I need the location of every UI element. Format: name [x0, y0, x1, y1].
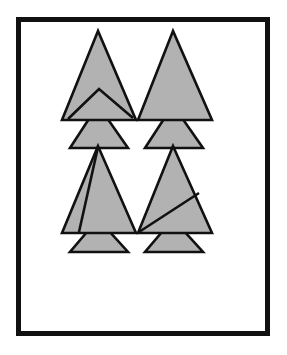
figure-container: Four stylized fir trees in a bordered fr…	[0, 0, 287, 355]
figure-drawing	[0, 0, 287, 355]
outer-border	[19, 20, 268, 334]
